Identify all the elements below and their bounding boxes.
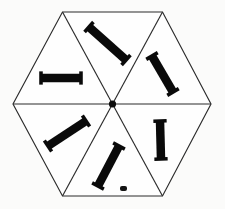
stray-ink-mark [120, 186, 127, 191]
figure-canvas [0, 0, 225, 209]
hexagon-center-dot [109, 100, 116, 107]
sector-bar-body-lower-right [160, 121, 161, 159]
hexagon-sector-diagram [0, 0, 225, 209]
